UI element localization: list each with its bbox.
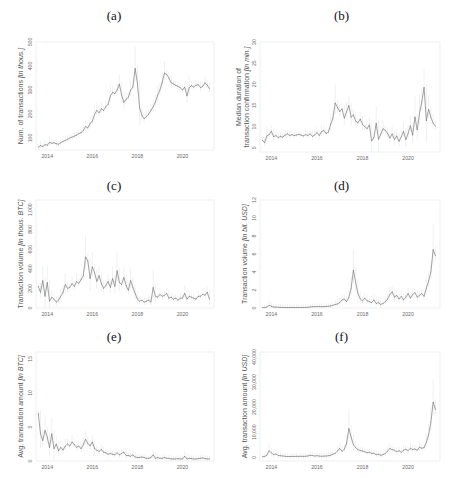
data-point bbox=[157, 297, 158, 298]
series-volatility bbox=[262, 69, 435, 152]
y-tick-label: 0 bbox=[27, 306, 33, 309]
data-point bbox=[105, 285, 106, 286]
data-point bbox=[305, 456, 306, 457]
y-axis-label: Num. of transactions [in thous.] bbox=[17, 47, 25, 145]
data-point bbox=[314, 135, 315, 136]
data-point bbox=[312, 455, 313, 456]
data-point bbox=[56, 143, 57, 144]
data-point bbox=[187, 459, 188, 460]
data-point bbox=[353, 444, 354, 445]
data-point bbox=[65, 446, 66, 447]
data-point bbox=[374, 300, 375, 301]
data-point bbox=[63, 292, 64, 293]
data-point bbox=[108, 281, 109, 282]
data-point bbox=[162, 458, 163, 459]
data-point bbox=[110, 96, 111, 97]
data-point bbox=[121, 94, 122, 95]
data-point bbox=[96, 110, 97, 111]
x-tick-label: 2014 bbox=[41, 311, 53, 317]
y-tick-label: 0 bbox=[27, 459, 33, 462]
data-point bbox=[339, 111, 340, 112]
data-point bbox=[135, 68, 136, 69]
data-point bbox=[380, 455, 381, 456]
data-point bbox=[85, 257, 86, 258]
data-point bbox=[387, 133, 388, 134]
data-point bbox=[90, 123, 91, 124]
data-point bbox=[166, 74, 167, 75]
y-tick-label: 6 bbox=[251, 252, 257, 255]
data-point bbox=[273, 136, 274, 137]
data-point bbox=[108, 104, 109, 105]
data-point bbox=[135, 293, 136, 294]
data-point bbox=[417, 297, 418, 298]
y-tick-label: 2 bbox=[251, 288, 257, 291]
data-point bbox=[101, 108, 102, 109]
data-point bbox=[367, 128, 368, 129]
data-point bbox=[169, 298, 170, 299]
data-point bbox=[144, 118, 145, 119]
data-point bbox=[103, 452, 104, 453]
data-point bbox=[292, 134, 293, 135]
y-tick-label: 600 bbox=[27, 245, 33, 254]
data-point bbox=[323, 456, 324, 457]
data-point bbox=[191, 85, 192, 86]
data-point bbox=[178, 458, 179, 459]
data-point bbox=[317, 306, 318, 307]
data-point bbox=[374, 137, 375, 138]
data-point bbox=[209, 459, 210, 460]
data-point bbox=[175, 459, 176, 460]
data-point bbox=[40, 292, 41, 293]
data-point bbox=[262, 307, 263, 308]
data-point bbox=[128, 97, 129, 98]
data-point bbox=[209, 299, 210, 300]
data-point bbox=[371, 302, 372, 303]
data-point bbox=[67, 288, 68, 289]
data-point bbox=[326, 133, 327, 134]
data-point bbox=[376, 123, 377, 124]
data-point bbox=[51, 433, 52, 434]
data-point bbox=[330, 455, 331, 456]
data-point bbox=[115, 286, 116, 287]
data-point bbox=[328, 306, 329, 307]
data-point bbox=[421, 448, 422, 449]
data-point bbox=[285, 135, 286, 136]
data-point bbox=[124, 452, 125, 453]
data-point bbox=[298, 456, 299, 457]
data-point bbox=[171, 459, 172, 460]
data-point bbox=[387, 299, 388, 300]
data-point bbox=[435, 126, 436, 127]
data-point bbox=[360, 299, 361, 300]
data-point bbox=[157, 457, 158, 458]
data-point bbox=[369, 125, 370, 126]
data-point bbox=[426, 120, 427, 121]
data-point bbox=[193, 298, 194, 299]
y-tick-label: 10 bbox=[251, 124, 257, 130]
data-point bbox=[124, 277, 125, 278]
data-point bbox=[378, 454, 379, 455]
data-point bbox=[196, 459, 197, 460]
data-point bbox=[323, 130, 324, 131]
data-point bbox=[346, 443, 347, 444]
data-point bbox=[96, 450, 97, 451]
data-point bbox=[266, 136, 267, 137]
x-tick-label: 2014 bbox=[266, 464, 278, 470]
data-point bbox=[262, 140, 263, 141]
data-point bbox=[401, 296, 402, 297]
y-tick-label: 400 bbox=[27, 264, 33, 273]
data-point bbox=[160, 294, 161, 295]
data-point bbox=[198, 458, 199, 459]
data-point bbox=[415, 449, 416, 450]
data-point bbox=[435, 409, 436, 410]
data-point bbox=[264, 456, 265, 457]
series-line bbox=[262, 402, 435, 457]
data-point bbox=[130, 280, 131, 281]
data-point bbox=[330, 306, 331, 307]
data-point bbox=[353, 114, 354, 115]
data-point bbox=[196, 85, 197, 86]
data-point bbox=[421, 102, 422, 103]
data-point bbox=[83, 130, 84, 131]
data-point bbox=[157, 95, 158, 96]
data-point bbox=[287, 456, 288, 457]
x-tick-label: 2018 bbox=[132, 311, 144, 317]
data-point bbox=[280, 307, 281, 308]
